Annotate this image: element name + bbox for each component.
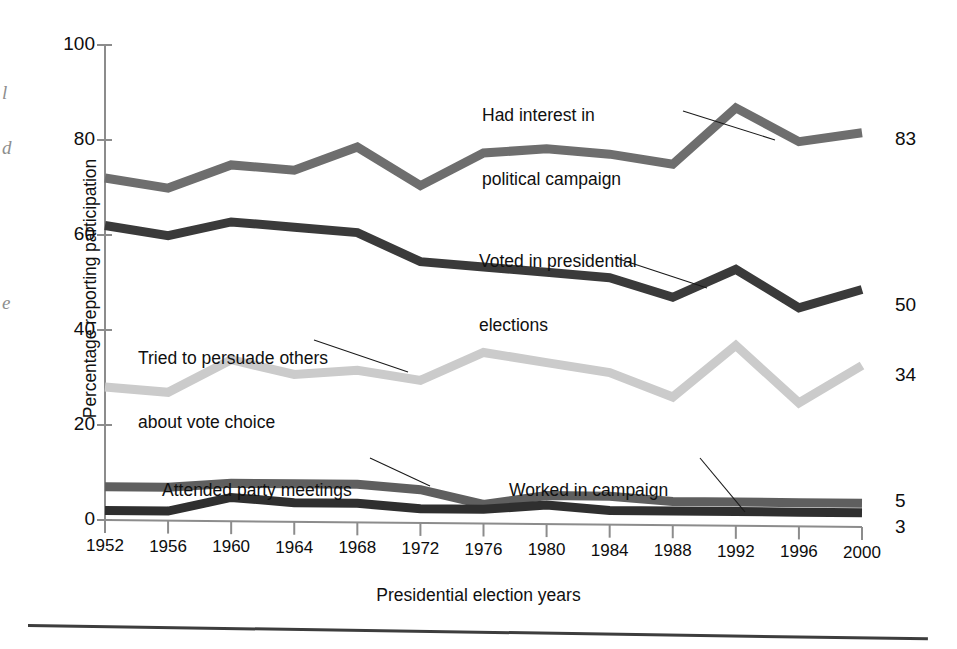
annotation-attended: Attended party meetings (162, 437, 352, 544)
annotation-voted-line1: Voted in presidential (479, 251, 637, 272)
annotation-persuade-line2: about vote choice (138, 412, 328, 433)
annotation-had-interest-line1: Had interest in (482, 105, 621, 126)
x-tick-label-1996: 1996 (768, 542, 830, 562)
y-tick-label-80: 80 (49, 128, 95, 150)
y-tick-label-40: 40 (49, 318, 95, 340)
y-tick-label-60: 60 (49, 223, 95, 245)
annotation-voted: Voted in presidential elections (479, 208, 637, 379)
x-tick-label-1972: 1972 (389, 539, 451, 559)
end-label-persuade: 34 (895, 364, 916, 386)
annotation-attended-line1: Attended party meetings (162, 480, 352, 501)
end-label-worked: 3 (895, 516, 906, 538)
y-tick-label-100: 100 (49, 33, 95, 55)
end-label-attended: 5 (895, 490, 906, 512)
y-tick-label-20: 20 (49, 413, 95, 435)
x-tick-label-2000: 2000 (831, 543, 893, 563)
x-tick-label-1976: 1976 (453, 540, 515, 560)
y-tick-label-0: 0 (49, 508, 95, 530)
annotation-worked-line1: Worked in campaign (509, 480, 668, 501)
x-tick-label-1992: 1992 (705, 542, 767, 562)
x-tick-label-1988: 1988 (642, 541, 704, 561)
annotation-voted-line2: elections (479, 315, 637, 336)
chart-figure: l d e Percentage reporting participation… (0, 0, 957, 649)
end-label-voted: 50 (895, 294, 916, 316)
annotation-worked: Worked in campaign (509, 437, 668, 544)
end-label-interest: 83 (895, 128, 916, 150)
x-tick-label-1952: 1952 (74, 536, 136, 556)
annotation-persuade-line1: Tried to persuade others (138, 348, 328, 369)
annotation-had-interest-line2: political campaign (482, 169, 621, 190)
